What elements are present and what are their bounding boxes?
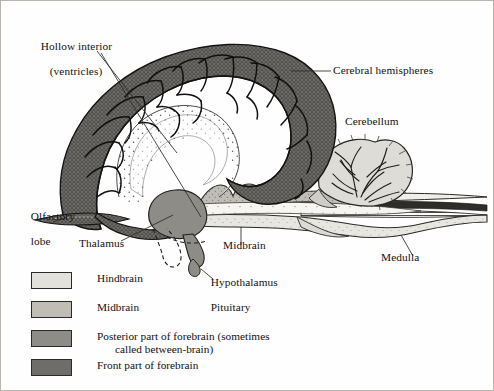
- label-cerebral-hemispheres: Cerebral hemispheres: [333, 64, 433, 77]
- legend-swatch-midbrain: [31, 301, 72, 318]
- label-hypothalamus-pituitary: Hypothalamus Pituitary: [199, 263, 278, 326]
- legend-item-front-forebrain: Front part of forebrain: [31, 359, 198, 376]
- label-cerebellum: Cerebellum: [345, 115, 399, 128]
- legend-item-hindbrain: Hindbrain: [31, 272, 143, 289]
- label-midbrain: Midbrain: [223, 239, 266, 252]
- label-olfactory-lobe: Olfactory lobe: [19, 197, 75, 260]
- legend-swatch-posterior-forebrain: [31, 330, 72, 347]
- legend-label-posterior-forebrain: Posterior part of forebrain (sometimes: [97, 330, 270, 343]
- label-olfactory-line1: Olfactory: [31, 210, 75, 222]
- hindbrain-medulla-region: [197, 215, 487, 238]
- legend-swatch-hindbrain: [31, 272, 72, 289]
- figure-frame: Hollow interior (ventricles) Cerebral he…: [0, 0, 494, 391]
- legend-item-midbrain: Midbrain: [31, 301, 139, 318]
- label-medulla: Medulla: [381, 251, 419, 264]
- label-thalamus: Thalamus: [79, 237, 124, 250]
- thalamus-region: [149, 190, 207, 239]
- legend-swatch-front-forebrain: [31, 359, 72, 376]
- label-hollow-interior: Hollow interior (ventricles): [29, 27, 112, 90]
- label-pituitary: Pituitary: [211, 301, 251, 313]
- label-hollow-interior-line2: (ventricles): [50, 65, 103, 78]
- legend-item-posterior-forebrain: Posterior part of forebrain (sometimes c…: [31, 330, 270, 356]
- legend-label-midbrain: Midbrain: [97, 301, 139, 314]
- label-hypothalamus: Hypothalamus: [211, 276, 278, 288]
- legend-label-hindbrain: Hindbrain: [97, 272, 143, 285]
- label-hollow-interior-line1: Hollow interior: [41, 40, 112, 52]
- label-olfactory-line2: lobe: [31, 235, 51, 247]
- legend-label-front-forebrain: Front part of forebrain: [97, 359, 198, 372]
- legend-label-posterior-forebrain-line2: called between-brain): [115, 343, 270, 356]
